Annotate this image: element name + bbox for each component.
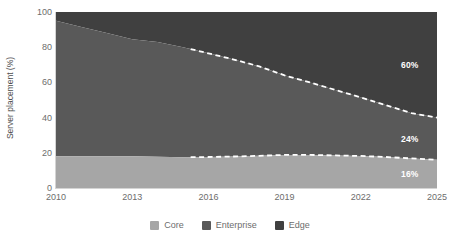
- y-tick-label: 20: [20, 148, 52, 158]
- x-tick-label: 2025: [414, 191, 460, 203]
- legend-label: Core: [164, 220, 184, 231]
- legend-swatch-icon: [275, 221, 284, 230]
- plot-area: 60% 24% 16%: [56, 12, 437, 188]
- y-axis-ticks: 020406080100: [16, 12, 52, 188]
- y-tick-label: 60: [20, 77, 52, 87]
- area-series-group: [56, 12, 437, 188]
- x-tick-label: 2013: [109, 191, 155, 203]
- legend-swatch-icon: [202, 221, 211, 230]
- stacked-area-svg: [56, 12, 437, 188]
- chart-legend: CoreEnterpriseEdge: [0, 214, 460, 236]
- area-core: [56, 155, 437, 188]
- x-tick-label: 2010: [33, 191, 79, 203]
- chart-figure: Server placement (%) 020406080100 60% 24…: [0, 0, 460, 244]
- y-tick-label: 40: [20, 113, 52, 123]
- y-tick-label: 100: [20, 7, 52, 17]
- legend-label: Edge: [289, 220, 310, 231]
- legend-label: Enterprise: [216, 220, 257, 231]
- legend-item-enterprise[interactable]: Enterprise: [202, 220, 257, 231]
- x-axis-line: [56, 188, 437, 189]
- value-label-enterprise: 24%: [401, 134, 419, 144]
- legend-item-core[interactable]: Core: [150, 220, 184, 231]
- y-tick-label: 80: [20, 42, 52, 52]
- legend-swatch-icon: [150, 221, 159, 230]
- x-tick-label: 2022: [338, 191, 384, 203]
- legend-item-edge[interactable]: Edge: [275, 220, 310, 231]
- value-label-core: 16%: [401, 169, 419, 179]
- x-tick-label: 2016: [185, 191, 231, 203]
- x-axis-ticks: 201020132016201920222025: [56, 191, 437, 205]
- x-tick-label: 2019: [262, 191, 308, 203]
- value-label-edge: 60%: [401, 60, 419, 70]
